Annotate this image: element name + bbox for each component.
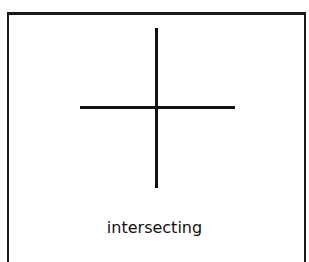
horizontal-line: [80, 106, 235, 109]
diagram-label: intersecting: [0, 218, 309, 237]
